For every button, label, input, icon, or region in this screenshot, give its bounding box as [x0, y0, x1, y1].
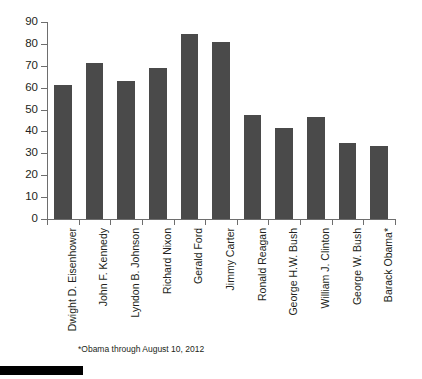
- bar: [370, 146, 388, 219]
- bars-layer: [47, 22, 395, 219]
- x-tick-mark: [110, 219, 111, 225]
- x-axis-label: Barack Obama*: [383, 228, 394, 302]
- x-axis-label: John F. Kennedy: [98, 228, 109, 306]
- y-tick-label: 40: [25, 126, 38, 138]
- x-axis-label: Lyndon B. Johnson: [130, 228, 141, 318]
- chart-footnote: *Obama through August 10, 2012: [78, 344, 204, 354]
- x-tick-mark: [79, 219, 80, 225]
- x-tick-mark: [205, 219, 206, 225]
- bar: [149, 68, 167, 219]
- bar: [117, 81, 135, 219]
- x-tick-mark: [268, 219, 269, 225]
- bar: [86, 63, 104, 220]
- x-axis-label: Jimmy Carter: [225, 228, 236, 290]
- x-tick-mark: [47, 219, 48, 225]
- y-tick-label: 60: [25, 82, 38, 94]
- y-tick-label: 30: [25, 148, 38, 160]
- bottom-rule-decoration: [0, 366, 83, 375]
- x-axis-label: William J. Clinton: [320, 228, 331, 309]
- x-tick-mark: [237, 219, 238, 225]
- x-tick-mark: [174, 219, 175, 225]
- x-axis-line: [47, 219, 396, 220]
- bar: [244, 115, 262, 219]
- x-axis-labels: Dwight D. EisenhowerJohn F. KennedyLyndo…: [47, 228, 396, 336]
- bar: [307, 117, 325, 219]
- x-axis-label: Dwight D. Eisenhower: [67, 228, 78, 331]
- y-tick-label: 20: [25, 169, 38, 181]
- x-axis-label: Gerald Ford: [193, 228, 204, 284]
- plot-area: 0102030405060708090: [47, 22, 395, 219]
- x-tick-mark: [363, 219, 364, 225]
- x-tick-mark: [395, 219, 396, 225]
- y-tick-label: 90: [25, 16, 38, 28]
- y-tick-label: 70: [25, 60, 38, 72]
- x-axis-label: Ronald Reagan: [257, 228, 268, 301]
- x-tick-mark: [300, 219, 301, 225]
- bar: [212, 42, 230, 219]
- y-tick-label: 10: [25, 191, 38, 203]
- y-tick-label: 0: [32, 213, 38, 225]
- bar: [181, 34, 199, 219]
- bar-chart-figure: 0102030405060708090 Dwight D. Eisenhower…: [0, 0, 422, 379]
- x-axis-label: George W. Bush: [352, 228, 363, 305]
- x-axis-label: Richard Nixon: [162, 228, 173, 294]
- x-tick-mark: [332, 219, 333, 225]
- y-tick-label: 80: [25, 38, 38, 50]
- bar: [339, 143, 357, 219]
- bar: [275, 128, 293, 219]
- x-tick-mark: [142, 219, 143, 225]
- y-tick-label: 50: [25, 104, 38, 116]
- bar: [54, 85, 72, 219]
- x-axis-label: George H.W. Bush: [288, 228, 299, 316]
